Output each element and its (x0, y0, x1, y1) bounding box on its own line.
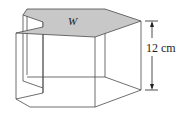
top-face-label: W (68, 15, 78, 27)
height-dimension (145, 21, 158, 90)
arrow-up-icon (150, 21, 154, 27)
top-face-w (16, 9, 141, 37)
bottom-edges (16, 90, 141, 107)
prism-diagram: W 12 cm (0, 0, 185, 113)
height-label: 12 cm (146, 41, 176, 55)
arrow-down-icon (150, 84, 154, 90)
